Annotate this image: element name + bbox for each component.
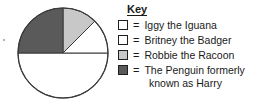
legend-title: Key xyxy=(127,3,147,16)
pie-chart-screenshot: Key = Iggy the Iguana = Britney the Badg… xyxy=(0,0,254,112)
legend-item-iggy-the-iguana: = Iggy the Iguana xyxy=(118,19,217,33)
legend-item-the-penguin-formerly-known-as-harry: = The Penguin formerly xyxy=(118,64,245,78)
legend-equals-sign-3: = xyxy=(133,64,139,76)
legend-equals-sign-1: = xyxy=(133,34,139,46)
legend-equals-sign-0: = xyxy=(133,19,139,31)
legend-swatch-light-gray xyxy=(118,50,128,60)
pie-slice-iggy-the-iguana xyxy=(18,53,108,98)
legend-equals-sign-2: = xyxy=(133,49,139,61)
legend-swatch-white xyxy=(118,20,128,30)
legend-label-known-as-harry: known as Harry xyxy=(149,77,222,89)
pie-slice-the-penguin-formerly-known-as-harry xyxy=(18,8,63,53)
pie-chart-svg xyxy=(0,0,120,112)
legend-label-robbie-the-racoon: Robbie the Racoon xyxy=(144,49,234,61)
pie-chart xyxy=(0,0,120,112)
legend-label-britney-the-badger: Britney the Badger xyxy=(144,34,231,46)
legend: Key = Iggy the Iguana = Britney the Badg… xyxy=(118,2,254,110)
legend-swatch-white-2 xyxy=(118,35,128,45)
legend-item-robbie-the-racoon: = Robbie the Racoon xyxy=(118,49,234,63)
legend-label-the-penguin-formerly: The Penguin formerly xyxy=(144,64,244,76)
scan-artifact-speck xyxy=(3,39,5,41)
legend-item-britney-the-badger: = Britney the Badger xyxy=(118,34,231,48)
legend-swatch-dark-gray xyxy=(118,65,128,75)
legend-label-iggy-the-iguana: Iggy the Iguana xyxy=(144,19,216,31)
